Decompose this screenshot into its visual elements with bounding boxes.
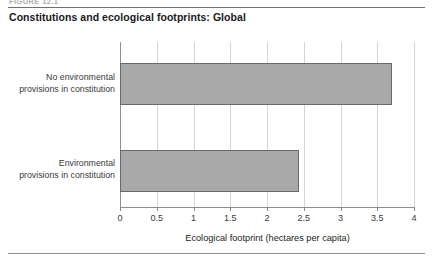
figure-number: FIGURE 12.1 [9, 0, 58, 6]
category-label-0-line1: No environmental [0, 72, 115, 84]
page-title: Constitutions and ecological footprints:… [9, 11, 246, 23]
category-label-1-line2: provisions in constitution [0, 170, 115, 182]
footer-divider-bottom [8, 253, 425, 254]
category-label-0: No environmental provisions in constitut… [0, 72, 115, 95]
x-axis-title: Ecological footprint (hectares per capit… [120, 233, 415, 243]
x-axis-tick-label: 2 [264, 213, 269, 223]
category-label-0-line2: provisions in constitution [0, 84, 115, 96]
category-label-1-line1: Environmental [0, 158, 115, 170]
header-divider-top [8, 7, 425, 8]
x-axis-tick [304, 207, 305, 211]
x-axis-tick [377, 207, 378, 211]
x-axis-tick [267, 207, 268, 211]
x-axis-tick-label: 4 [411, 213, 416, 223]
x-axis-tick-label: 0.5 [150, 213, 163, 223]
x-axis-tick [157, 207, 158, 211]
gridline [414, 42, 415, 207]
bar [120, 150, 299, 192]
x-axis-tick-label: 1 [191, 213, 196, 223]
x-axis-tick [341, 207, 342, 211]
category-label-1: Environmental provisions in constitution [0, 158, 115, 181]
x-axis-tick [230, 207, 231, 211]
x-axis-tick-label: 3.5 [371, 213, 384, 223]
x-axis-tick [120, 207, 121, 211]
x-axis-tick-label: 2.5 [297, 213, 310, 223]
x-axis-tick [194, 207, 195, 211]
x-axis-tick-label: 3 [338, 213, 343, 223]
bar [120, 63, 392, 105]
x-axis-tick-label: 1.5 [224, 213, 237, 223]
x-axis-tick [414, 207, 415, 211]
x-axis-tick-label: 0 [117, 213, 122, 223]
chart-plot-area: 00.511.522.533.54 [120, 42, 414, 207]
